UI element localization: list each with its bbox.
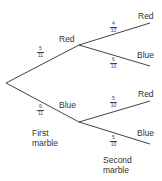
prob-red-red: 4 10: [110, 21, 117, 33]
numerator: 6: [39, 104, 42, 109]
prob-red-blue: 6 10: [110, 57, 117, 69]
numerator: 5: [112, 135, 115, 140]
prob-first-blue: 6 11: [37, 104, 44, 116]
prob-blue-blue: 5 10: [110, 135, 117, 147]
caption-first-marble: First marble: [32, 128, 58, 148]
node-label-first-red: Red: [59, 35, 75, 44]
caption-line: marble: [103, 165, 132, 175]
denominator: 10: [111, 64, 117, 69]
probability-tree-diagram: Red Blue 5 11 6 11 Red Blue Red Blue 4 1…: [0, 0, 162, 181]
denominator: 10: [111, 142, 117, 147]
numerator: 5: [112, 96, 115, 101]
node-label-blue-red: Red: [138, 90, 154, 99]
node-label-first-blue: Blue: [59, 101, 76, 110]
caption-second-marble: Second marble: [103, 155, 132, 175]
denominator: 11: [38, 53, 43, 58]
prob-blue-red: 5 10: [110, 96, 117, 108]
node-label-blue-blue: Blue: [137, 129, 154, 138]
caption-line: marble: [32, 138, 58, 148]
numerator: 6: [112, 57, 115, 62]
prob-first-red: 5 11: [37, 46, 44, 58]
caption-line: Second: [103, 155, 132, 165]
numerator: 4: [112, 21, 115, 26]
node-label-red-red: Red: [138, 12, 154, 21]
denominator: 11: [38, 111, 43, 116]
denominator: 10: [111, 28, 117, 33]
denominator: 10: [111, 103, 117, 108]
caption-line: First: [32, 128, 58, 138]
numerator: 5: [39, 46, 42, 51]
node-label-red-blue: Blue: [137, 51, 154, 60]
